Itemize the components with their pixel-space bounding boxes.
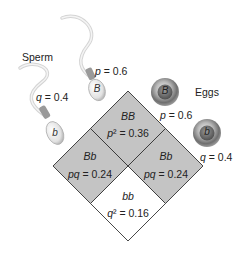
sperm-b-allele: b <box>48 127 62 138</box>
sperm-label: Sperm <box>22 51 53 63</box>
egg-b-allele: b <box>200 126 214 137</box>
egg-b-frequency: q = 0.4 <box>200 151 232 163</box>
cell-bb-frequency: q² = 0.16 <box>98 207 158 219</box>
egg-B-frequency: p = 0.6 <box>160 109 192 121</box>
sperm-B-allele: B <box>90 83 104 94</box>
cell-BB-frequency: p² = 0.36 <box>98 127 158 139</box>
cell-Bb-right-genotype: Bb <box>136 150 196 162</box>
cell-bb-genotype: bb <box>98 190 158 202</box>
sperm-B-frequency: p = 0.6 <box>95 65 127 77</box>
egg-B-allele: B <box>158 85 172 96</box>
eggs-label: Eggs <box>195 86 219 98</box>
cell-BB-genotype: BB <box>98 110 158 122</box>
cell-Bb-left-genotype: Bb <box>60 150 120 162</box>
cell-Bb-right-frequency: pq = 0.24 <box>136 168 196 180</box>
cell-Bb-left-frequency: pq = 0.24 <box>60 168 120 180</box>
sperm-b-frequency: q = 0.4 <box>36 91 68 103</box>
